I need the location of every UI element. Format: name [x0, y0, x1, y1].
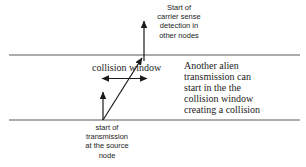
alien-transmission-note: Another alien transmission can start in … [184, 60, 294, 115]
carrier-sense-label: Start of carrier sense detection in othe… [144, 3, 214, 40]
source-transmission-label: start of transmission at the source node [72, 123, 142, 160]
collision-window-label: collision window [92, 62, 161, 73]
collision-window-diagram: Start of carrier sense detection in othe… [0, 0, 306, 167]
